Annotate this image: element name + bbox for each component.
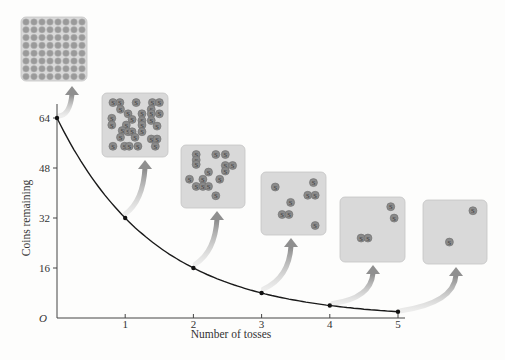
arrow-icon bbox=[264, 238, 298, 289]
coin-icon bbox=[55, 50, 62, 57]
coin-glyph: S bbox=[127, 143, 131, 150]
x-tick-label: 1 bbox=[122, 318, 128, 330]
coin-panel-0 bbox=[21, 17, 87, 81]
coin-glyph: S bbox=[214, 151, 218, 158]
coin-glyph: S bbox=[306, 192, 310, 199]
coin-icon bbox=[39, 34, 46, 41]
coin-icon bbox=[39, 58, 46, 65]
coin-glyph: S bbox=[110, 122, 114, 129]
coin-icon bbox=[71, 34, 78, 41]
coin-icon bbox=[71, 27, 78, 34]
coin-panel-3: SSSSSSSS bbox=[261, 172, 326, 235]
coin-icon bbox=[39, 19, 46, 26]
coin-glyph: S bbox=[155, 123, 159, 130]
coin-icon bbox=[31, 42, 38, 49]
coin-glyph: S bbox=[448, 239, 452, 246]
coin-icon bbox=[23, 73, 30, 80]
coin-panel-1: SSSSSSSSSSSSSSSSSSSSSSSSSSSSSSSS bbox=[102, 93, 168, 157]
coin-icon bbox=[63, 66, 70, 73]
arrow-icon bbox=[195, 211, 224, 264]
panel-background bbox=[21, 17, 87, 81]
coin-icon bbox=[23, 50, 30, 57]
arrow-icon bbox=[401, 267, 463, 311]
coin-glyph: S bbox=[273, 184, 277, 191]
coin-icon bbox=[63, 34, 70, 41]
coin-icon bbox=[47, 66, 54, 73]
coin-glyph: S bbox=[133, 134, 137, 141]
coin-glyph: S bbox=[136, 143, 140, 150]
data-point bbox=[123, 216, 127, 220]
coin-glyph: S bbox=[134, 99, 138, 106]
data-point bbox=[55, 116, 59, 120]
data-point bbox=[259, 291, 263, 295]
coin-icon bbox=[55, 58, 62, 65]
x-axis-title: Number of tosses bbox=[191, 328, 272, 340]
coin-icon bbox=[31, 27, 38, 34]
coin-icon bbox=[23, 42, 30, 49]
coin-glyph: S bbox=[149, 117, 153, 124]
coin-icon bbox=[47, 27, 54, 34]
panel-background bbox=[423, 200, 487, 264]
coin-icon bbox=[71, 58, 78, 65]
coin-icon bbox=[31, 73, 38, 80]
coin-glyph: S bbox=[207, 183, 211, 190]
coin-icon bbox=[79, 66, 86, 73]
coin-icon bbox=[47, 73, 54, 80]
coin-panel-5: SS bbox=[423, 200, 487, 264]
coin-glyph: S bbox=[207, 169, 211, 176]
coin-icon bbox=[39, 27, 46, 34]
coin-panels: SSSSSSSSSSSSSSSSSSSSSSSSSSSSSSSSSSSSSSSS… bbox=[21, 17, 487, 264]
y-tick-label: 32 bbox=[39, 212, 50, 224]
coin-glyph: S bbox=[231, 162, 235, 169]
coin-icon bbox=[63, 50, 70, 57]
y-tick-label: 48 bbox=[39, 162, 51, 174]
coin-icon bbox=[55, 66, 62, 73]
coin-glyph: S bbox=[194, 161, 198, 168]
coin-icon bbox=[23, 27, 30, 34]
arrow-icon bbox=[333, 265, 380, 304]
coin-icon bbox=[63, 58, 70, 65]
coin-icon bbox=[31, 19, 38, 26]
coin-icon bbox=[31, 58, 38, 65]
coin-icon bbox=[63, 19, 70, 26]
coin-icon bbox=[79, 42, 86, 49]
coin-glyph: S bbox=[158, 99, 162, 106]
coin-icon bbox=[71, 66, 78, 73]
coin-icon bbox=[79, 73, 86, 80]
y-tick-label: 16 bbox=[39, 262, 51, 274]
data-point bbox=[191, 266, 195, 270]
coin-icon bbox=[55, 34, 62, 41]
coin-glyph: S bbox=[130, 116, 134, 123]
coin-icon bbox=[71, 42, 78, 49]
coin-icon bbox=[71, 73, 78, 80]
coin-icon bbox=[31, 50, 38, 57]
coin-icon bbox=[63, 27, 70, 34]
coin-icon bbox=[55, 42, 62, 49]
coin-icon bbox=[23, 34, 30, 41]
coin-glyph: S bbox=[389, 203, 393, 210]
coin-glyph: S bbox=[153, 143, 157, 150]
coin-glyph: S bbox=[313, 222, 317, 229]
coin-icon bbox=[79, 34, 86, 41]
origin-label: O bbox=[39, 312, 47, 324]
x-tick-label: 4 bbox=[327, 318, 333, 330]
coin-icon bbox=[55, 19, 62, 26]
coin-icon bbox=[39, 50, 46, 57]
coin-glyph: S bbox=[280, 211, 284, 218]
coin-icon bbox=[39, 66, 46, 73]
coin-icon bbox=[55, 27, 62, 34]
coin-icon bbox=[79, 58, 86, 65]
coin-icon bbox=[63, 42, 70, 49]
coin-icon bbox=[47, 19, 54, 26]
coin-icon bbox=[79, 50, 86, 57]
coin-glyph: S bbox=[218, 176, 222, 183]
coin-glyph: S bbox=[111, 99, 115, 106]
coin-panel-4: SSSS bbox=[340, 197, 405, 262]
coin-glyph: S bbox=[111, 143, 115, 150]
coin-icon bbox=[23, 66, 30, 73]
coin-icon bbox=[23, 19, 30, 26]
arrow-icon bbox=[59, 86, 79, 116]
coin-icon bbox=[39, 73, 46, 80]
coin-icon bbox=[79, 19, 86, 26]
data-point bbox=[396, 310, 400, 314]
